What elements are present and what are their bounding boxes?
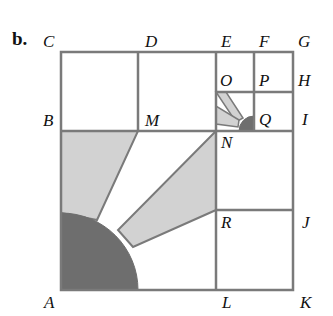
large-sunburst xyxy=(61,131,216,290)
label-Q: Q xyxy=(259,111,271,128)
label-N: N xyxy=(221,134,232,151)
label-C: C xyxy=(43,33,54,50)
label-H: H xyxy=(298,72,310,89)
label-F: F xyxy=(259,33,269,50)
label-P: P xyxy=(259,72,269,89)
label-A: A xyxy=(44,294,54,311)
label-L: L xyxy=(222,294,231,311)
label-G: G xyxy=(298,33,310,50)
label-O: O xyxy=(220,72,232,89)
small-sunburst xyxy=(216,92,254,131)
label-K: K xyxy=(300,294,311,311)
label-M: M xyxy=(145,112,159,129)
label-B: B xyxy=(43,112,53,129)
panel-label: b. xyxy=(12,29,27,48)
large-band-2 xyxy=(118,131,216,247)
label-E: E xyxy=(221,33,231,50)
label-I: I xyxy=(302,111,308,128)
label-J: J xyxy=(302,214,310,231)
large-band-1 xyxy=(61,131,138,220)
label-R: R xyxy=(221,214,231,231)
label-D: D xyxy=(145,33,157,50)
